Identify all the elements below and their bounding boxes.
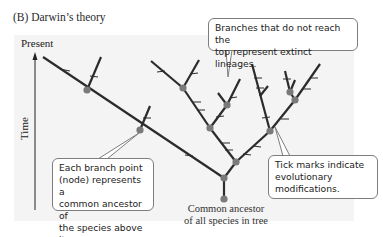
node-callout-line3: common ancestor of <box>59 198 147 222</box>
node-callout-line4: the species above it. <box>59 222 147 237</box>
present-label: Present <box>21 37 53 49</box>
root-label-line1: Common ancestor <box>176 203 276 215</box>
extinct-callout-line1: Branches that do not reach the <box>215 22 351 46</box>
time-axis-label: Time <box>18 117 30 140</box>
node-callout-line1: Each branch point <box>59 162 147 174</box>
extinct-callout-line2: top represent extinct lineages. <box>215 46 351 70</box>
node-callout-line2: (node) represents a <box>59 174 147 198</box>
tick-callout-line1: Tick marks indicate <box>275 159 371 171</box>
tick-callout-line2: evolutionary <box>275 171 371 183</box>
time-axis-arrow <box>33 52 38 210</box>
tick-callout-line3: modifications. <box>275 183 371 195</box>
tick-marks-callout: Tick marks indicate evolutionary modific… <box>268 155 378 199</box>
root-ancestor-label: Common ancestor of all species in tree <box>176 203 276 227</box>
branch-point-callout: Each branch point (node) represents a co… <box>52 158 154 211</box>
root-label-line2: of all species in tree <box>176 215 276 227</box>
extinct-lineages-callout: Branches that do not reach the top repre… <box>208 18 358 51</box>
